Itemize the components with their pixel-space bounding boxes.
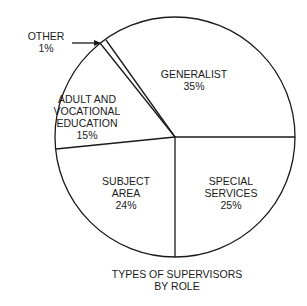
label-adult-vocational: ADULT AND VOCATIONAL EDUCATION 15% [54, 93, 121, 141]
label-subject-area: SUBJECT AREA 24% [102, 175, 150, 211]
chart-caption: TYPES OF SUPERVISORS BY ROLE [112, 268, 243, 292]
label-other: OTHER 1% [28, 30, 65, 54]
label-special-services: SPECIAL SERVICES 25% [205, 175, 258, 211]
label-generalist: GENERALIST 35% [161, 68, 228, 92]
